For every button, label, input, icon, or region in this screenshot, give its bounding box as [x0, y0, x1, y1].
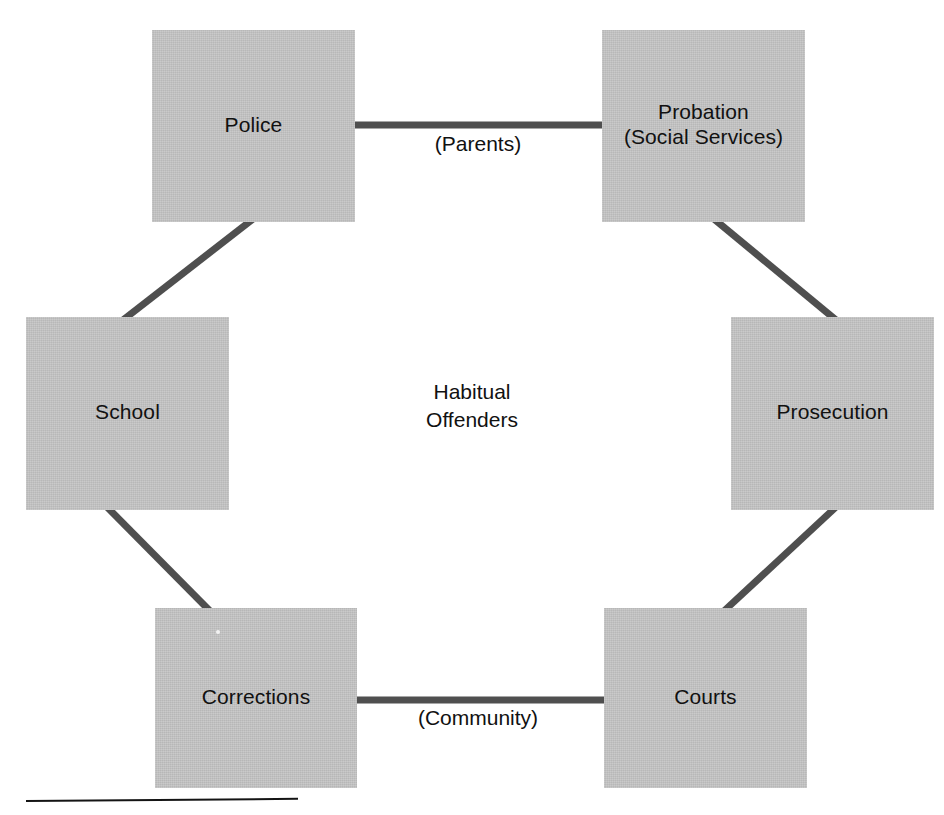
- connector-prosecution-probation: [714, 219, 836, 320]
- connector-school-corrections: [107, 507, 210, 611]
- node-school-label: School: [95, 400, 160, 425]
- scan-speck: [216, 630, 220, 634]
- node-prosecution[interactable]: Prosecution: [731, 317, 934, 510]
- node-police[interactable]: Police: [152, 30, 355, 222]
- node-police-label: Police: [225, 113, 283, 138]
- connector-police-school: [123, 219, 253, 320]
- node-courts[interactable]: Courts: [604, 608, 807, 788]
- diagram-canvas: Police Probation (Social Services) Schoo…: [0, 0, 944, 815]
- node-corrections-label: Corrections: [202, 685, 310, 710]
- node-probation-label: Probation (Social Services): [602, 100, 805, 150]
- node-probation[interactable]: Probation (Social Services): [602, 30, 805, 222]
- node-courts-label: Courts: [674, 685, 736, 710]
- center-text: Habitual Offenders: [372, 378, 572, 434]
- edge-label-community: (Community): [378, 707, 578, 728]
- edge-label-parents: (Parents): [378, 133, 578, 154]
- connector-courts-prosecution: [724, 507, 836, 611]
- node-school[interactable]: School: [26, 317, 229, 510]
- node-prosecution-label: Prosecution: [777, 400, 889, 425]
- node-corrections[interactable]: Corrections: [155, 608, 357, 788]
